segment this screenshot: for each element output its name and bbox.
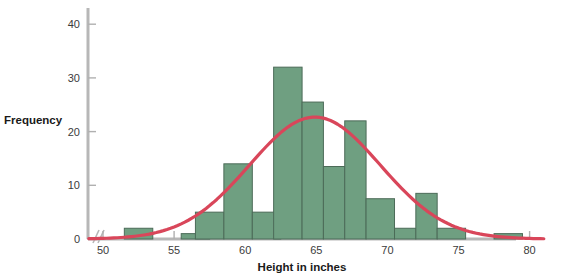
y-tick-label: 40 bbox=[68, 18, 80, 30]
x-tick-label: 70 bbox=[381, 244, 393, 256]
histogram-bar bbox=[366, 199, 394, 239]
y-axis-title: Frequency bbox=[4, 114, 63, 126]
histogram-bar bbox=[274, 67, 302, 239]
x-tick-label: 65 bbox=[310, 244, 322, 256]
x-axis-title: Height in inches bbox=[258, 261, 347, 273]
x-tick-label: 80 bbox=[523, 244, 535, 256]
histogram-bar bbox=[395, 228, 416, 239]
y-tick-label: 0 bbox=[74, 233, 80, 245]
histogram-bar bbox=[302, 102, 323, 239]
histogram-chart: 010203040 50556065707580 Height in inche… bbox=[0, 0, 572, 278]
x-tick-label: 60 bbox=[239, 244, 251, 256]
chart-canvas: 010203040 50556065707580 Height in inche… bbox=[0, 0, 572, 278]
histogram-bar bbox=[224, 164, 252, 239]
y-tick-label: 10 bbox=[68, 179, 80, 191]
histogram-bar bbox=[195, 212, 223, 239]
x-tick-label: 50 bbox=[97, 244, 109, 256]
histogram-bar bbox=[323, 167, 344, 239]
x-tick-label: 55 bbox=[168, 244, 180, 256]
y-tick-label: 30 bbox=[68, 72, 80, 84]
y-tick-label: 20 bbox=[68, 126, 80, 138]
x-tick-label: 75 bbox=[452, 244, 464, 256]
